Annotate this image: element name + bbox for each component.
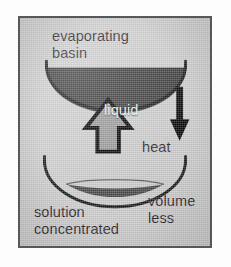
bottom-basin-liquid-surface: [66, 180, 164, 184]
label-evaporating-basin: evaporating basin: [52, 28, 129, 61]
label-solution-concentrated: solution concentrated: [34, 204, 119, 237]
label-volume-less: volume less: [148, 193, 195, 226]
label-liquid: liquid: [104, 102, 138, 119]
label-heat: heat: [142, 139, 171, 156]
diagram-figure: evaporating basin liquid heat solution c…: [0, 0, 231, 267]
time-arrow: [170, 87, 190, 141]
diagram-panel: evaporating basin liquid heat solution c…: [18, 16, 212, 248]
time-arrow-head: [170, 119, 190, 141]
